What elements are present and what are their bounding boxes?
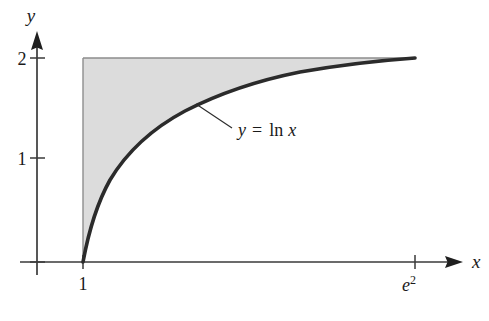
y-axis-arrowhead [31,31,43,50]
y-tick-label-1: 1 [18,149,27,169]
calculus-figure: y x 2 1 1 e2 y=lnx [0,0,489,321]
x-axis-arrowhead [445,256,463,268]
curve-label-argument: x [287,120,296,140]
x-tick-label-e2: e2 [402,273,416,295]
x-axis-label: x [471,251,481,272]
curve-label-function: ln [269,120,283,140]
curve-equation-label: y=lnx [236,120,296,140]
e2-base: e [402,275,410,295]
e2-exponent: 2 [410,273,416,287]
figure-container: y x 2 1 1 e2 y=lnx [0,0,489,321]
curve-label-equals: = [252,120,262,140]
y-tick-label-2: 2 [18,49,27,69]
shaded-region-group [83,58,415,262]
y-axis-label: y [25,5,36,26]
x-tick-label-1: 1 [79,274,88,294]
curve-label-leader-line [196,104,232,128]
curve-label-lhs: y [236,120,246,140]
shaded-region [83,58,415,262]
